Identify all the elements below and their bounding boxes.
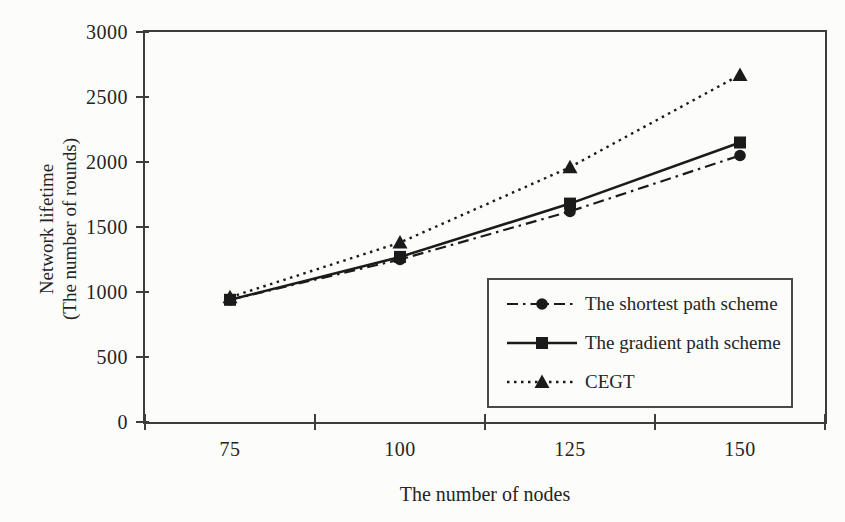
y-tick	[136, 161, 149, 163]
marker-triangle-icon	[733, 67, 748, 81]
marker-square-icon	[564, 198, 576, 210]
marker-circle-icon	[536, 299, 548, 311]
marker-circle-icon	[734, 150, 746, 162]
x-tick	[824, 414, 826, 430]
y-tick-label: 500	[50, 345, 128, 369]
y-tick-label: 2000	[50, 150, 128, 174]
x-tick	[314, 414, 316, 430]
x-tick	[144, 414, 146, 430]
marker-square-icon	[394, 251, 406, 263]
y-tick-label: 0	[50, 410, 128, 434]
y-tick-label: 3000	[50, 20, 128, 44]
legend-label-cegt: CEGT	[585, 371, 635, 393]
y-tick-label: 1500	[50, 215, 128, 239]
y-tick	[136, 291, 149, 293]
marker-triangle-icon	[563, 160, 578, 174]
legend-label-gradient-path: The gradient path scheme	[585, 332, 781, 354]
legend-label-shortest-path: The shortest path scheme	[585, 293, 778, 315]
y-tick	[136, 356, 149, 358]
marker-square-icon	[734, 137, 746, 149]
y-tick	[136, 226, 149, 228]
y-tick	[136, 96, 149, 98]
marker-triangle-icon	[393, 235, 408, 249]
x-tick-label: 150	[700, 437, 780, 461]
x-tick-label: 125	[530, 437, 610, 461]
x-axis-title: The number of nodes	[145, 482, 825, 506]
legend-item-gradient-path: The gradient path scheme	[505, 326, 791, 360]
y-tick	[136, 421, 149, 423]
y-tick-label: 1000	[50, 280, 128, 304]
legend-item-shortest-path: The shortest path scheme	[505, 287, 791, 321]
series-line-cegt	[230, 75, 740, 297]
x-tick	[484, 414, 486, 430]
x-tick-label: 100	[360, 437, 440, 461]
legend-sample-dash-dot-circle-icon	[505, 294, 579, 314]
legend: The shortest path scheme The gradient pa…	[487, 278, 793, 408]
y-tick	[136, 31, 149, 33]
series-line-gradient-path	[230, 143, 740, 300]
legend-item-cegt: CEGT	[505, 365, 791, 399]
marker-square-icon	[536, 337, 548, 349]
legend-sample-dotted-triangle-icon	[505, 372, 579, 392]
y-tick-label: 2500	[50, 85, 128, 109]
x-tick	[654, 414, 656, 430]
chart-figure: Network lifetime (The number of rounds) …	[0, 0, 845, 522]
x-tick-label: 75	[190, 437, 270, 461]
legend-sample-solid-square-icon	[505, 333, 579, 353]
